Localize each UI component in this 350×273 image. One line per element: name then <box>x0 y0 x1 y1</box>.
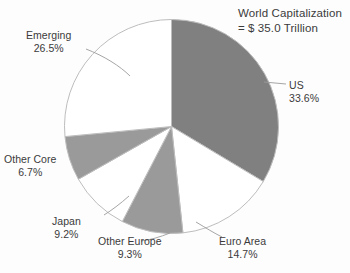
slice-label-other-core-value: 6.7% <box>4 166 56 179</box>
slice-label-us: US 33.6% <box>289 79 319 105</box>
slice-label-japan: Japan 9.2% <box>52 215 81 241</box>
slice-label-other-europe-name: Other Europe <box>98 235 162 248</box>
slice-label-emerging-value: 26.5% <box>26 42 71 55</box>
slice-label-euro-area-name: Euro Area <box>219 235 266 248</box>
slice-label-other-europe-value: 9.3% <box>98 248 162 261</box>
slice-label-japan-name: Japan <box>52 215 81 228</box>
slice-label-emerging: Emerging 26.5% <box>26 29 71 55</box>
chart-title-line1: World Capitalization <box>238 6 342 21</box>
slice-label-euro-area: Euro Area 14.7% <box>219 235 266 261</box>
chart-title: World Capitalization = $ 35.0 Trillion <box>238 6 342 35</box>
pie-slice-emerging <box>64 19 171 136</box>
slice-label-other-core: Other Core 6.7% <box>4 153 56 179</box>
chart-title-line2: = $ 35.0 Trillion <box>238 21 342 36</box>
pie-slice-group <box>64 19 278 233</box>
slice-label-other-core-name: Other Core <box>4 153 56 166</box>
slice-label-japan-value: 9.2% <box>52 228 81 241</box>
slice-label-us-name: US <box>289 79 319 92</box>
slice-label-euro-area-value: 14.7% <box>219 248 266 261</box>
slice-label-us-value: 33.6% <box>289 92 319 105</box>
slice-label-other-europe: Other Europe 9.3% <box>98 235 162 261</box>
pie-chart: World Capitalization = $ 35.0 Trillion E… <box>0 0 350 273</box>
slice-label-emerging-name: Emerging <box>26 29 71 42</box>
